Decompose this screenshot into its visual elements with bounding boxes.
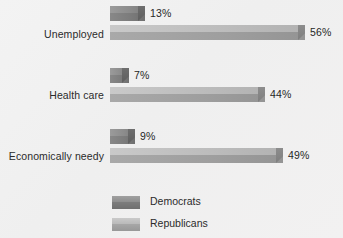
bar-front-face	[110, 94, 265, 102]
bar-top-face	[110, 87, 265, 94]
bar-unemployed-democrats	[110, 6, 145, 21]
category-label-health-care: Health care	[0, 89, 104, 101]
bar-economically-needy-republicans	[110, 148, 283, 163]
value-label-economically-needy-democrats: 9%	[140, 130, 155, 142]
legend-label-democrats: Democrats	[150, 195, 201, 207]
value-label-health-care-democrats: 7%	[134, 69, 149, 81]
value-label-unemployed-democrats: 13%	[150, 7, 171, 19]
bar-front-face	[110, 32, 305, 40]
value-label-economically-needy-republicans: 49%	[288, 149, 309, 161]
bar-top-face	[110, 25, 305, 32]
bar-economically-needy-democrats	[110, 129, 135, 144]
category-label-economically-needy: Economically needy	[0, 150, 104, 162]
category-label-unemployed: Unemployed	[0, 28, 104, 40]
bar-unemployed-republicans	[110, 25, 305, 40]
legend-swatch-democrats	[112, 196, 140, 209]
bar-health-care-republicans	[110, 87, 265, 102]
legend-label-republicans: Republicans	[150, 217, 208, 229]
value-label-unemployed-republicans: 56%	[310, 26, 331, 38]
bar-health-care-democrats	[110, 68, 129, 83]
bar-front-face	[110, 155, 283, 163]
legend-swatch-republicans	[112, 218, 140, 231]
bar-chart: Unemployed Health care Economically need…	[0, 0, 343, 238]
value-label-health-care-republicans: 44%	[270, 88, 291, 100]
bar-top-face	[110, 148, 283, 155]
